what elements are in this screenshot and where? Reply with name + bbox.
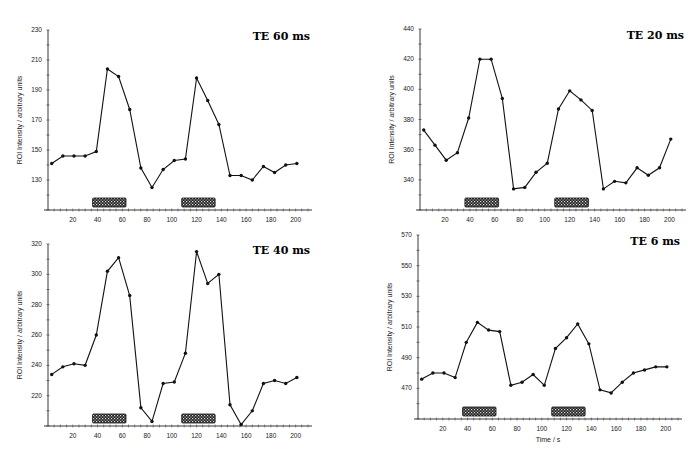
x-tick-label: 60	[119, 432, 127, 439]
x-tick-label: 60	[491, 216, 499, 223]
data-point	[467, 116, 470, 119]
x-tick-label: 100	[166, 432, 177, 439]
data-point	[420, 377, 423, 380]
y-tick-label: 240	[31, 361, 42, 368]
chart-title: TE 20 ms	[627, 29, 684, 42]
data-point	[273, 379, 276, 382]
x-tick-label: 160	[614, 216, 625, 223]
data-point	[445, 159, 448, 162]
data-point	[217, 123, 220, 126]
x-tick-label: 40	[464, 425, 472, 432]
y-tick-label: 490	[401, 354, 412, 361]
data-point	[184, 157, 187, 160]
data-point	[579, 98, 582, 101]
data-point	[262, 382, 265, 385]
y-tick-label: 530	[401, 292, 412, 299]
y-tick-label: 550	[401, 262, 412, 269]
data-point	[83, 364, 86, 367]
data-point	[665, 365, 668, 368]
data-point	[161, 382, 164, 385]
x-tick-label: 140	[216, 432, 227, 439]
data-point	[590, 109, 593, 112]
x-tick-label: 20	[441, 216, 449, 223]
chart-svg: 3403603804004204402040608010012014016018…	[360, 0, 698, 226]
x-tick-label: 40	[94, 216, 102, 223]
data-point	[602, 187, 605, 190]
chart-svg: 1301501701902102302040608010012014016018…	[0, 0, 340, 226]
data-point	[658, 166, 661, 169]
chart-te-20: 3403603804004204402040608010012014016018…	[360, 0, 698, 226]
data-point	[239, 174, 242, 177]
stimulus-block	[463, 407, 496, 416]
y-tick-label: 150	[31, 146, 42, 153]
chart-te-60: 1301501701902102302040608010012014016018…	[0, 0, 340, 226]
data-point	[95, 150, 98, 153]
data-point	[295, 162, 298, 165]
data-line	[422, 322, 667, 393]
data-point	[273, 171, 276, 174]
data-point	[128, 108, 131, 111]
data-point	[543, 384, 546, 387]
stimulus-block	[93, 414, 126, 423]
chart-title: TE 60 ms	[253, 30, 310, 43]
data-line	[424, 59, 671, 189]
data-point	[61, 365, 64, 368]
y-tick-label: 570	[401, 231, 412, 238]
data-point	[534, 171, 537, 174]
data-point	[228, 174, 231, 177]
x-tick-label: 60	[119, 216, 127, 223]
data-point	[613, 180, 616, 183]
x-tick-label: 20	[439, 425, 447, 432]
x-tick-label: 160	[241, 432, 252, 439]
data-point	[217, 273, 220, 276]
data-point	[173, 380, 176, 383]
data-point	[501, 97, 504, 100]
x-tick-label: 180	[265, 216, 276, 223]
data-point	[72, 154, 75, 157]
stimulus-block	[465, 198, 499, 207]
data-point	[150, 186, 153, 189]
data-point	[546, 162, 549, 165]
data-point	[95, 333, 98, 336]
x-tick-label: 200	[290, 216, 301, 223]
data-point	[512, 187, 515, 190]
y-tick-label: 260	[31, 331, 42, 338]
data-point	[284, 163, 287, 166]
data-point	[609, 391, 612, 394]
x-tick-label: 100	[536, 425, 547, 432]
data-point	[598, 388, 601, 391]
x-tick-label: 80	[143, 432, 151, 439]
data-point	[654, 365, 657, 368]
data-point	[295, 376, 298, 379]
data-point	[498, 330, 501, 333]
data-point	[139, 166, 142, 169]
x-tick-label: 180	[635, 425, 646, 432]
data-point	[239, 423, 242, 426]
data-point	[206, 282, 209, 285]
x-tick-label: 80	[513, 425, 521, 432]
x-tick-label: 160	[241, 216, 252, 223]
x-axis-label: Time / s	[536, 436, 561, 443]
stimulus-block	[93, 198, 126, 207]
x-tick-label: 100	[166, 216, 177, 223]
data-point	[557, 107, 560, 110]
chart-svg: 4704905105305505702040608010012014016018…	[360, 226, 698, 452]
x-tick-label: 40	[94, 432, 102, 439]
data-point	[531, 373, 534, 376]
data-point	[50, 162, 53, 165]
stimulus-block	[555, 198, 589, 207]
data-point	[72, 362, 75, 365]
data-point	[621, 381, 624, 384]
data-point	[195, 76, 198, 79]
data-point	[284, 382, 287, 385]
data-point	[453, 376, 456, 379]
chart-title: TE 6 ms	[630, 235, 680, 248]
y-axis-label: ROI Intensity / arbitrary units	[16, 290, 24, 379]
stimulus-block	[552, 407, 585, 416]
data-point	[624, 181, 627, 184]
x-tick-label: 140	[589, 216, 600, 223]
data-point	[632, 371, 635, 374]
data-point	[161, 168, 164, 171]
data-point	[128, 294, 131, 297]
y-tick-label: 470	[401, 384, 412, 391]
